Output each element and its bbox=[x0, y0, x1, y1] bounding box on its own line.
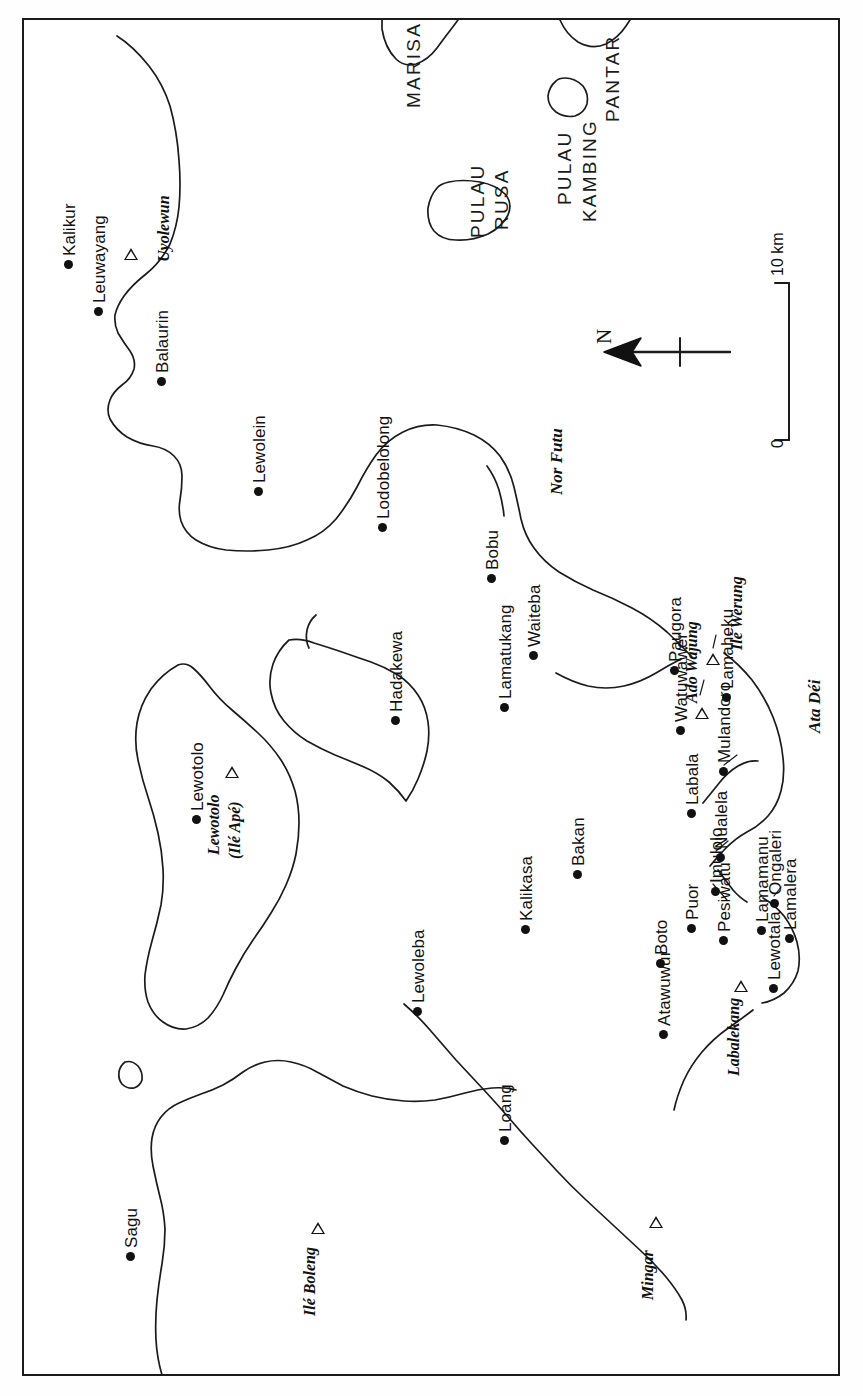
settlement-label-hadakewa: Hadakewa bbox=[388, 631, 405, 712]
region-label-pulau: PULAU bbox=[555, 131, 574, 205]
region-label-marisa: MARISA bbox=[404, 22, 423, 108]
settlement-label-lodobelolong: Lodobelolong bbox=[375, 416, 392, 519]
settlement-dot-bobu bbox=[487, 574, 496, 583]
volcano-peak-icon-mingar bbox=[649, 1216, 663, 1228]
settlement-label-pesiwatu: Pesiwatu bbox=[716, 862, 733, 932]
settlement-label-bakan: Bakan bbox=[570, 817, 587, 866]
settlement-dot-lamalera bbox=[785, 934, 794, 943]
north-arrow-label: N bbox=[594, 329, 615, 344]
settlement-label-lamamanu: Lamamanu bbox=[754, 836, 771, 922]
settlement-dot-kalikasa bbox=[521, 925, 530, 934]
settlement-dot-labala bbox=[687, 809, 696, 818]
settlement-label-puor: Puor bbox=[684, 884, 701, 920]
settlement-dot-lewoleba bbox=[413, 1007, 422, 1016]
region-label-pulau: PULAU bbox=[468, 164, 487, 238]
settlement-label-labala: Labala bbox=[684, 753, 701, 805]
volcano-label-ado-wajung: Ado Wajung bbox=[684, 621, 700, 703]
map-canvas: KalikurLeuwayangBalaurinLewoleinLodobelo… bbox=[0, 0, 863, 1396]
settlement-dot-bakan bbox=[573, 870, 582, 879]
settlement-label-loang: Loang bbox=[497, 1084, 514, 1132]
settlement-dot-lewolein bbox=[254, 487, 263, 496]
region-label-nor-futu: Nor Futu bbox=[548, 428, 565, 495]
settlement-label-lamalera: Lamalera bbox=[782, 858, 799, 930]
volcano-label-labalekang: Labalekang bbox=[726, 998, 742, 1076]
settlement-dot-lodobelolong bbox=[378, 523, 387, 532]
region-label-kambing: KAMBING bbox=[580, 119, 599, 222]
settlement-label-bobu: Bobu bbox=[484, 530, 501, 570]
volcano-label-lewotolo: Lewotolo bbox=[206, 795, 222, 855]
settlement-label-kalikur: Kalikur bbox=[61, 203, 78, 256]
volcano-peak-icon-ile-boleng bbox=[311, 1222, 325, 1234]
settlement-label-lewoleba: Lewoleba bbox=[410, 929, 427, 1003]
volcano-label-uyolewun: Uyolewun bbox=[156, 195, 172, 262]
settlement-dot-sagu bbox=[126, 1252, 135, 1261]
volcano-label-ile-boleng: Ilé Boleng bbox=[302, 1247, 318, 1316]
settlement-dot-lewotala bbox=[769, 984, 778, 993]
settlement-label-sagu: Sagu bbox=[123, 1208, 140, 1248]
settlement-dot-loang bbox=[500, 1136, 509, 1145]
volcano-sublabel-lewotolo: (Ilé Apé) bbox=[227, 801, 243, 859]
settlement-dot-puor bbox=[687, 924, 696, 933]
settlement-label-leuwayang: Leuwayang bbox=[91, 215, 108, 303]
settlement-dot-waiteba bbox=[529, 651, 538, 660]
settlement-dot-watuwawer bbox=[676, 726, 685, 735]
settlement-label-atawuwur: Atawuwur bbox=[656, 951, 673, 1026]
settlement-label-lewotala: Lewotala bbox=[766, 911, 783, 980]
settlement-dot-leuwayang bbox=[94, 307, 103, 316]
settlement-label-lewotolo: Lewotolo bbox=[189, 742, 206, 811]
settlement-label-balaurin: Balaurin bbox=[154, 310, 171, 373]
settlement-dot-hadakewa bbox=[391, 716, 400, 725]
scale-bar-min-label: 0 bbox=[770, 439, 786, 448]
region-label-rusa: RUSA bbox=[492, 168, 511, 230]
settlement-label-lewolein: Lewolein bbox=[251, 415, 268, 483]
volcano-peak-icon-lewotolo bbox=[225, 766, 239, 778]
volcano-peak-icon-uyolewun bbox=[124, 248, 138, 260]
settlement-dot-atawuwur bbox=[659, 1030, 668, 1039]
settlement-dot-kalikur bbox=[64, 260, 73, 269]
volcano-peak-icon-ado-wajung bbox=[695, 707, 709, 719]
volcano-label-ile-werung: Ilé Werung bbox=[729, 576, 745, 650]
region-label-ata-dei: Ata Déi bbox=[806, 680, 823, 733]
settlement-label-mulandoro: Mulandoro bbox=[716, 682, 733, 763]
volcano-peak-icon-ile-werung bbox=[706, 653, 720, 665]
settlement-label-waiteba: Waiteba bbox=[526, 585, 543, 647]
settlement-dot-mulandoro bbox=[719, 767, 728, 776]
volcano-peak-icon-labalekang bbox=[734, 980, 748, 992]
settlement-label-kalikasa: Kalikasa bbox=[518, 856, 535, 921]
settlement-dot-balaurin bbox=[157, 377, 166, 386]
settlement-label-lamatukang: Lamatukang bbox=[497, 604, 514, 699]
region-label-pantar: PANTAR bbox=[603, 35, 622, 122]
volcano-label-mingar: Mingar bbox=[640, 1250, 656, 1300]
settlement-dot-pesiwatu bbox=[719, 936, 728, 945]
scale-bar-max-label: 10 km bbox=[770, 232, 786, 276]
settlement-dot-lewotolo bbox=[192, 815, 201, 824]
settlement-dot-lamatukang bbox=[500, 703, 509, 712]
